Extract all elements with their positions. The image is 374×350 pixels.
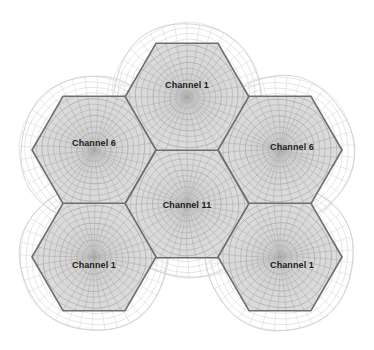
cell-diagram-canvas (0, 0, 374, 350)
cell-coverage-diagram: Channel 1Channel 6Channel 6Channel 11Cha… (0, 0, 374, 350)
